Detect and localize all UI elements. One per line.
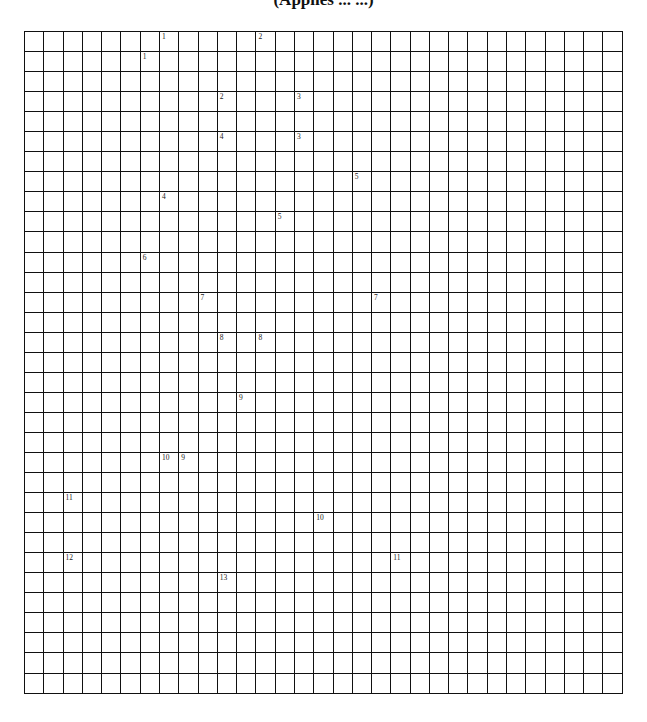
grid-cell[interactable] [276,413,295,433]
grid-cell[interactable] [507,313,526,333]
grid-cell[interactable] [468,433,487,453]
grid-cell[interactable] [160,52,179,72]
grid-cell[interactable] [160,573,179,593]
grid-cell[interactable] [584,172,603,192]
grid-cell[interactable] [218,493,237,513]
grid-cell[interactable] [256,253,275,273]
grid-cell[interactable] [295,473,314,493]
grid-cell[interactable] [584,373,603,393]
grid-cell[interactable] [468,513,487,533]
grid-cell[interactable] [44,573,63,593]
grid-cell[interactable] [603,433,622,453]
grid-cell[interactable] [237,273,256,293]
grid-cell[interactable] [121,573,140,593]
grid-cell[interactable] [218,533,237,553]
grid-cell[interactable] [449,674,468,694]
grid-cell[interactable] [25,473,44,493]
grid-cell[interactable] [121,593,140,613]
grid-cell[interactable] [83,413,102,433]
grid-cell[interactable] [141,172,160,192]
grid-cell[interactable] [237,533,256,553]
grid-cell[interactable] [334,52,353,72]
grid-cell[interactable] [256,553,275,573]
grid-cell[interactable]: 4 [160,192,179,212]
grid-cell[interactable] [314,232,333,252]
grid-cell[interactable] [121,253,140,273]
grid-cell[interactable] [353,473,372,493]
grid-cell[interactable] [295,353,314,373]
grid-cell[interactable] [44,413,63,433]
grid-cell[interactable] [468,232,487,252]
grid-cell[interactable] [141,393,160,413]
grid-cell[interactable] [199,333,218,353]
grid-cell[interactable]: 3 [295,132,314,152]
grid-cell[interactable] [507,32,526,52]
grid-cell[interactable] [372,32,391,52]
grid-cell[interactable] [141,32,160,52]
grid-cell[interactable] [25,72,44,92]
grid-cell[interactable] [199,313,218,333]
grid-cell[interactable] [603,232,622,252]
grid-cell[interactable] [121,132,140,152]
grid-cell[interactable] [83,593,102,613]
grid-cell[interactable] [276,513,295,533]
grid-cell[interactable] [488,653,507,673]
grid-cell[interactable] [199,72,218,92]
grid-cell[interactable] [121,232,140,252]
grid-cell[interactable] [488,553,507,573]
grid-cell[interactable] [121,433,140,453]
grid-cell[interactable] [391,533,410,553]
grid-cell[interactable] [160,172,179,192]
grid-cell[interactable] [565,613,584,633]
grid-cell[interactable] [430,553,449,573]
grid-cell[interactable] [526,513,545,533]
grid-cell[interactable] [526,232,545,252]
grid-cell[interactable] [179,533,198,553]
grid-cell[interactable] [237,152,256,172]
grid-cell[interactable] [276,433,295,453]
grid-cell[interactable] [565,52,584,72]
grid-cell[interactable] [449,653,468,673]
grid-cell[interactable] [334,674,353,694]
grid-cell[interactable] [102,633,121,653]
grid-cell[interactable] [141,553,160,573]
grid-cell[interactable] [565,132,584,152]
grid-cell[interactable]: 3 [295,92,314,112]
grid-cell[interactable] [603,172,622,192]
grid-cell[interactable] [218,353,237,373]
grid-cell[interactable] [603,112,622,132]
grid-cell[interactable] [468,152,487,172]
grid-cell[interactable] [218,453,237,473]
grid-cell[interactable] [160,593,179,613]
grid-cell[interactable] [411,32,430,52]
grid-cell[interactable] [179,333,198,353]
grid-cell[interactable] [314,413,333,433]
grid-cell[interactable] [179,273,198,293]
grid-cell[interactable] [256,613,275,633]
grid-cell[interactable] [179,112,198,132]
grid-cell[interactable] [141,633,160,653]
grid-cell[interactable] [64,253,83,273]
grid-cell[interactable] [507,72,526,92]
grid-cell[interactable]: 6 [141,253,160,273]
grid-cell[interactable] [179,393,198,413]
grid-cell[interactable] [526,353,545,373]
grid-cell[interactable] [25,633,44,653]
grid-cell[interactable] [44,553,63,573]
grid-cell[interactable] [199,373,218,393]
grid-cell[interactable] [488,92,507,112]
grid-cell[interactable] [237,433,256,453]
grid-cell[interactable]: 11 [391,553,410,573]
grid-cell[interactable] [526,32,545,52]
grid-cell[interactable] [546,553,565,573]
grid-cell[interactable] [121,313,140,333]
grid-cell[interactable] [25,232,44,252]
grid-cell[interactable] [44,92,63,112]
grid-cell[interactable] [121,112,140,132]
grid-cell[interactable] [218,172,237,192]
grid-cell[interactable] [488,593,507,613]
grid-cell[interactable] [295,313,314,333]
grid-cell[interactable] [160,152,179,172]
grid-cell[interactable] [64,433,83,453]
grid-cell[interactable] [334,433,353,453]
